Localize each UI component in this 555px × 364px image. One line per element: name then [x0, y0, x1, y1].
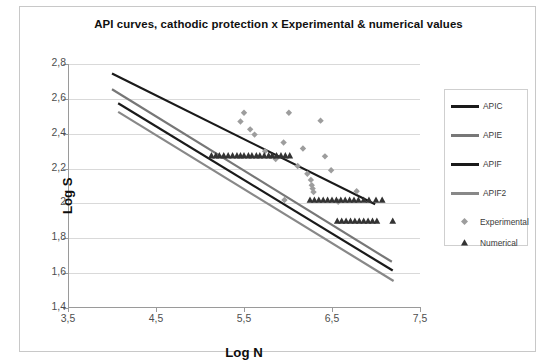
series-apif2: [118, 112, 393, 281]
data-point: [286, 110, 292, 116]
data-point: [251, 131, 257, 137]
legend-label: APIF2: [483, 187, 506, 199]
x-tick-label: 5,5: [221, 313, 267, 324]
data-point: [317, 117, 323, 123]
legend-line-swatch: [451, 163, 479, 166]
chart-legend: APICAPIEAPIFAPIF2ExperimentalNumerical: [444, 89, 528, 246]
series-numerical: [208, 152, 396, 224]
y-tick-label: 1,6: [24, 266, 66, 277]
data-point: [237, 118, 243, 124]
legend-line-swatch: [451, 105, 479, 108]
data-point: [280, 139, 286, 145]
data-point: [241, 110, 247, 116]
data-point: [373, 197, 380, 203]
legend-item-apif2[interactable]: APIF2: [449, 187, 527, 199]
legend-label: APIC: [483, 100, 503, 112]
plot-area: 1,41,61,822,22,42,62,8 3,54,55,56,57,5 L…: [68, 64, 420, 308]
chart-frame: API curves, cathodic protection x Experi…: [19, 6, 536, 352]
y-tick-label: 1,4: [24, 301, 66, 312]
legend-line-swatch: [451, 134, 479, 137]
legend-label: APIE: [483, 129, 502, 141]
data-point: [322, 153, 328, 159]
x-tick-label: 6,5: [309, 313, 355, 324]
y-axis-title: Log S: [60, 177, 75, 214]
data-point: [300, 145, 306, 151]
data-point: [373, 217, 380, 223]
legend-marker-swatch: [460, 238, 469, 247]
series-apie: [112, 89, 392, 262]
legend-line-swatch: [451, 192, 479, 195]
y-tick-label: 2,2: [24, 162, 66, 173]
data-point: [389, 217, 396, 223]
legend-item-apie[interactable]: APIE: [449, 129, 527, 141]
x-axis-title: Log N: [68, 345, 420, 360]
data-point: [308, 177, 314, 183]
legend-item-numerical[interactable]: Numerical: [449, 237, 527, 249]
data-point: [379, 197, 386, 203]
legend-item-apic[interactable]: APIC: [449, 100, 527, 112]
legend-item-apif[interactable]: APIF: [449, 158, 527, 170]
series-apif: [118, 103, 393, 270]
series-apic: [112, 74, 375, 205]
data-point: [247, 126, 253, 132]
chart-title: API curves, cathodic protection x Experi…: [20, 18, 537, 30]
data-point: [328, 167, 334, 173]
x-tick-label: 3,5: [45, 313, 91, 324]
x-tick-label: 7,5: [397, 313, 443, 324]
legend-label: Numerical: [480, 237, 518, 249]
y-tick-label: 2,8: [24, 57, 66, 68]
legend-label: Experimental: [480, 216, 529, 228]
legend-label: APIF: [483, 158, 502, 170]
x-tick: [420, 307, 421, 312]
series-layer: [68, 64, 420, 308]
y-tick-label: 2,6: [24, 92, 66, 103]
data-point: [286, 152, 293, 158]
legend-item-experimental[interactable]: Experimental: [449, 216, 527, 228]
legend-marker-swatch: [460, 217, 469, 226]
y-tick-label: 1,8: [24, 231, 66, 242]
x-tick-label: 4,5: [133, 313, 179, 324]
y-tick-label: 2,4: [24, 127, 66, 138]
